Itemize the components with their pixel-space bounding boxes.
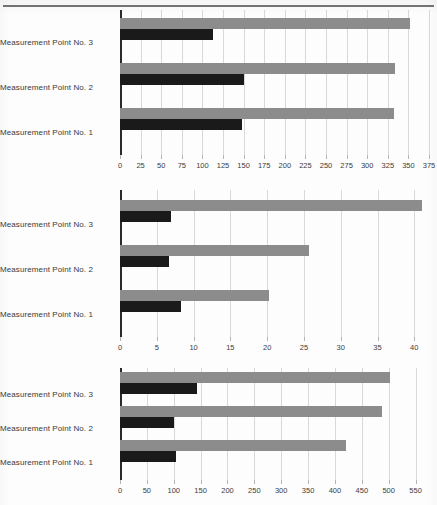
tick-mark [408, 155, 409, 159]
x-axis-tick-label: 225 [299, 161, 312, 170]
category-label: Measurement Point No. 1 [0, 128, 116, 138]
tick-mark [244, 155, 245, 159]
x-axis-tick-label: 250 [248, 486, 261, 495]
tick-mark [254, 480, 255, 484]
tick-mark [362, 480, 363, 484]
x-axis-tick-label: 200 [221, 486, 234, 495]
x-axis-tick-label: 0 [118, 161, 122, 170]
chart-3-bar-groups [120, 368, 429, 480]
x-axis-tick-label: 25 [136, 161, 144, 170]
gridline [429, 10, 430, 155]
bar-gray [120, 18, 410, 29]
x-axis-tick-label: 250 [320, 161, 333, 170]
tick-mark [147, 480, 148, 484]
x-axis-tick-label: 100 [196, 161, 209, 170]
bar-black [120, 119, 242, 130]
chart-2-bar-groups [120, 190, 429, 337]
bar-gray [120, 63, 395, 74]
bar-gray [120, 290, 269, 301]
x-axis-tick-label: 150 [194, 486, 207, 495]
x-axis-tick-label: 400 [329, 486, 342, 495]
tick-mark [281, 480, 282, 484]
x-axis-tick-label: 200 [279, 161, 292, 170]
x-axis-tick-label: 25 [300, 343, 308, 352]
tick-mark [308, 480, 309, 484]
bar-black [120, 74, 244, 85]
x-axis-tick-label: 500 [382, 486, 395, 495]
tick-mark [174, 480, 175, 484]
chart-3-plot-area [120, 368, 429, 480]
tick-mark [264, 155, 265, 159]
tick-mark [230, 337, 231, 341]
tick-mark [414, 337, 415, 341]
tick-mark [182, 155, 183, 159]
x-axis-tick-label: 10 [189, 343, 197, 352]
tick-mark [157, 337, 158, 341]
x-axis-tick-label: 275 [340, 161, 353, 170]
bar-gray [120, 406, 382, 417]
tick-mark [416, 480, 417, 484]
bar-black [120, 29, 213, 40]
category-label: Measurement Point No. 1 [0, 458, 116, 468]
page-top-rule [3, 5, 434, 7]
tick-mark [141, 155, 142, 159]
category-label: Measurement Point No. 1 [0, 310, 116, 320]
x-axis-tick-label: 375 [423, 161, 436, 170]
tick-mark [161, 155, 162, 159]
x-axis-tick-label: 0 [118, 343, 122, 352]
tick-mark [326, 155, 327, 159]
tick-mark [304, 337, 305, 341]
chart-1-plot-area [120, 10, 429, 155]
tick-mark [202, 155, 203, 159]
bar-chart-3: Measurement Point No. 1Measurement Point… [0, 368, 437, 505]
tick-mark [194, 337, 195, 341]
x-axis-tick-label: 325 [382, 161, 395, 170]
x-axis-tick-label: 50 [157, 161, 165, 170]
x-axis-tick-label: 15 [226, 343, 234, 352]
category-label: Measurement Point No. 3 [0, 390, 116, 400]
x-axis-tick-label: 450 [356, 486, 369, 495]
tick-mark [341, 337, 342, 341]
bar-black [120, 301, 181, 312]
bar-black [120, 383, 197, 394]
tick-mark [378, 337, 379, 341]
x-axis-tick-label: 75 [178, 161, 186, 170]
bar-chart-2: Measurement Point No. 1Measurement Point… [0, 190, 437, 362]
x-axis-tick-label: 175 [258, 161, 271, 170]
x-axis-tick-label: 350 [402, 161, 415, 170]
tick-mark [120, 155, 121, 159]
tick-mark [388, 155, 389, 159]
chart-2-plot-area [120, 190, 429, 337]
bar-black [120, 256, 169, 267]
x-axis-tick-label: 35 [373, 343, 381, 352]
tick-mark [335, 480, 336, 484]
x-axis-tick-label: 300 [361, 161, 374, 170]
x-axis-tick-label: 5 [155, 343, 159, 352]
bar-black [120, 451, 176, 462]
bar-gray [120, 372, 390, 383]
x-axis-tick-label: 100 [167, 486, 180, 495]
bar-black [120, 211, 171, 222]
tick-mark [267, 337, 268, 341]
category-label: Measurement Point No. 2 [0, 424, 116, 434]
x-axis-tick-label: 0 [118, 486, 122, 495]
x-axis-tick-label: 550 [409, 486, 422, 495]
bar-chart-1: Measurement Point No. 1Measurement Point… [0, 10, 437, 180]
x-axis-tick-label: 300 [275, 486, 288, 495]
tick-mark [285, 155, 286, 159]
x-axis-tick-label: 30 [337, 343, 345, 352]
x-axis-tick-label: 40 [410, 343, 418, 352]
tick-mark [367, 155, 368, 159]
tick-mark [223, 155, 224, 159]
tick-mark [305, 155, 306, 159]
category-label: Measurement Point No. 2 [0, 265, 116, 275]
bar-gray [120, 108, 394, 119]
category-label: Measurement Point No. 3 [0, 38, 116, 48]
x-axis-tick-label: 50 [143, 486, 151, 495]
bar-gray [120, 245, 309, 256]
scanned-figure-page: Measurement Point No. 1Measurement Point… [0, 0, 437, 505]
tick-mark [389, 480, 390, 484]
tick-mark [429, 155, 430, 159]
category-label: Measurement Point No. 2 [0, 83, 116, 93]
tick-mark [120, 337, 121, 341]
